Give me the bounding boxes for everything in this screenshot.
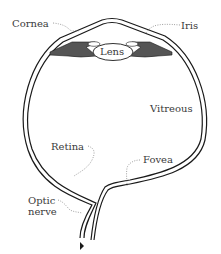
label-retina: Retina	[51, 141, 84, 152]
label-optic-nerve-line1: Optic	[28, 195, 55, 206]
label-lens: Lens	[100, 46, 124, 57]
label-optic-nerve-line2: nerve	[28, 206, 57, 217]
label-cornea: Cornea	[12, 18, 49, 29]
eye-diagram: Cornea Iris Lens Vitreous Retina Fovea O…	[0, 0, 221, 254]
label-iris: Iris	[181, 20, 198, 31]
label-vitreous: Vitreous	[150, 103, 193, 114]
label-fovea: Fovea	[143, 154, 173, 165]
arrow-icon	[80, 242, 84, 250]
